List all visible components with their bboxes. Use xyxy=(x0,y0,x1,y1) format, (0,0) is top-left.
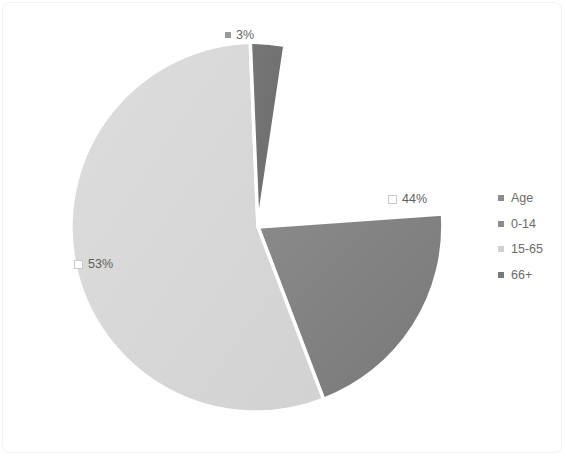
data-label-44: 44% xyxy=(388,192,427,206)
pie-chart-svg xyxy=(0,0,470,457)
legend-item-0-14[interactable]: 0-14 xyxy=(498,218,543,231)
data-label-marker-icon xyxy=(388,195,397,204)
data-label-3-text: 3% xyxy=(236,28,254,42)
chart-canvas: 44% 53% 3% Age 0-14 15-65 66+ xyxy=(0,0,566,457)
data-label-53-text: 53% xyxy=(88,257,113,271)
pie-slice-66-plus[interactable] xyxy=(250,42,285,227)
data-label-marker-icon xyxy=(74,260,83,269)
pie-chart-plot-area: 44% 53% 3% xyxy=(0,0,470,457)
legend-item-15-65[interactable]: 15-65 xyxy=(498,243,543,256)
data-label-3: 3% xyxy=(225,28,254,42)
data-label-44-text: 44% xyxy=(402,192,427,206)
legend-item-label: 15-65 xyxy=(511,243,543,256)
legend-item-label: Age xyxy=(511,192,533,205)
data-label-53: 53% xyxy=(74,257,113,271)
legend-item-66-plus[interactable]: 66+ xyxy=(498,269,543,282)
legend-item-age[interactable]: Age xyxy=(498,192,543,205)
legend-swatch-icon xyxy=(498,195,504,201)
chart-legend: Age 0-14 15-65 66+ xyxy=(498,192,543,281)
data-label-marker-icon xyxy=(225,32,231,38)
legend-swatch-icon xyxy=(498,246,504,252)
legend-item-label: 0-14 xyxy=(511,218,536,231)
legend-swatch-icon xyxy=(498,221,504,227)
legend-swatch-icon xyxy=(498,272,504,278)
legend-item-label: 66+ xyxy=(511,269,532,282)
